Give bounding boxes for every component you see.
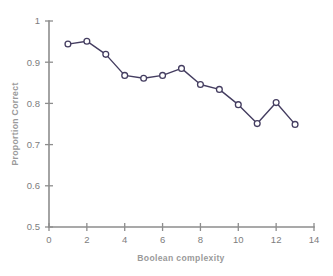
data-point-marker <box>141 75 147 81</box>
y-tick-label: 1 <box>35 15 40 26</box>
data-point-marker <box>122 72 128 78</box>
y-tick-label: 0.9 <box>27 57 40 68</box>
y-tick-label: 0.8 <box>27 98 40 109</box>
data-point-marker <box>292 122 298 128</box>
x-tick-label: 6 <box>160 234 165 245</box>
data-point-marker <box>198 82 204 88</box>
line-chart: 0.50.60.70.80.91 02468101214 Proportion … <box>0 0 333 276</box>
data-point-marker <box>84 38 90 44</box>
x-tick-label: 4 <box>122 234 127 245</box>
x-tick-label: 0 <box>46 234 51 245</box>
chart-container: 0.50.60.70.80.91 02468101214 Proportion … <box>0 0 333 276</box>
y-tick-label: 0.7 <box>27 139 40 150</box>
data-point-marker <box>235 102 241 108</box>
x-axis-title: Boolean complexity <box>137 253 224 263</box>
x-tick-label: 14 <box>309 234 320 245</box>
series-markers <box>65 38 298 127</box>
data-point-marker <box>216 86 222 92</box>
x-tick-label: 12 <box>271 234 282 245</box>
y-tick-label: 0.6 <box>27 180 40 191</box>
data-point-marker <box>65 41 71 47</box>
x-tick-label: 8 <box>198 234 203 245</box>
y-tick-label: 0.5 <box>27 221 40 232</box>
axes <box>49 21 314 227</box>
series-line-proportion-correct <box>68 41 295 124</box>
data-point-marker <box>160 72 166 78</box>
data-point-marker <box>254 121 260 127</box>
data-point-marker <box>273 100 279 106</box>
data-point-marker <box>103 51 109 57</box>
x-tick-label: 10 <box>233 234 244 245</box>
y-axis-title: Proportion Correct <box>10 82 20 165</box>
x-tick-label: 2 <box>84 234 89 245</box>
data-point-marker <box>179 65 185 71</box>
